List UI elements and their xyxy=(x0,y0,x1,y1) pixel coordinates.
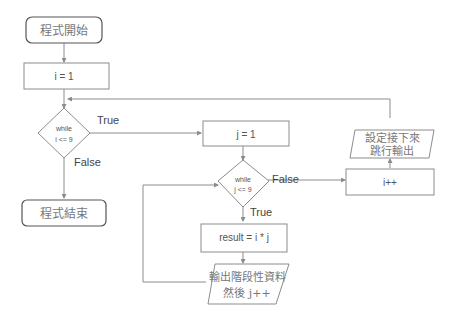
end-label: 程式結束 xyxy=(40,206,88,221)
inc-i-node: i++ xyxy=(346,169,434,195)
output-j-node: 輸出階段性資料 然後 j++ xyxy=(208,264,289,304)
init-j-node: j = 1 xyxy=(203,121,289,146)
result-label: result = i * j xyxy=(219,232,269,243)
output-i-line2: 跳行輸出 xyxy=(370,144,414,158)
inc-i-label: i++ xyxy=(383,177,397,188)
cond-j-true-label: True xyxy=(250,206,272,218)
result-node: result = i * j xyxy=(201,224,287,252)
end-node: 程式結束 xyxy=(22,200,106,226)
output-j-line2: 然後 j++ xyxy=(223,286,270,300)
cond-j-line1: while xyxy=(234,176,251,183)
flowchart: 程式開始 i = 1 while i <= 9 True False 程式結束 … xyxy=(0,0,449,320)
cond-j-node: while j <= 9 xyxy=(218,160,269,207)
output-i-line1: 設定接下來 xyxy=(365,131,420,145)
output-i-node: 設定接下來 跳行輸出 xyxy=(350,130,434,158)
cond-i-line2: i <= 9 xyxy=(55,136,73,143)
cond-i-true-label: True xyxy=(97,114,119,126)
start-node: 程式開始 xyxy=(26,17,102,43)
start-label: 程式開始 xyxy=(40,23,88,38)
cond-j-false-label: False xyxy=(272,173,299,185)
init-i-label: i = 1 xyxy=(54,71,74,82)
init-i-node: i = 1 xyxy=(24,63,109,89)
cond-i-node: while i <= 9 xyxy=(38,108,90,158)
output-j-line1: 輸出階段性資料 xyxy=(209,270,286,284)
init-j-label: j = 1 xyxy=(235,129,256,140)
cond-i-line1: while xyxy=(55,125,72,132)
cond-j-line2: j <= 9 xyxy=(233,186,252,194)
cond-i-false-label: False xyxy=(74,156,101,168)
